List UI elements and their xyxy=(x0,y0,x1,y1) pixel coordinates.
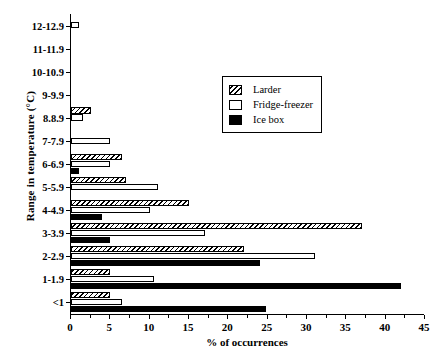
x-axis-tick-label: 5 xyxy=(107,321,113,333)
bar-group xyxy=(71,38,425,59)
bar-fridge xyxy=(71,161,110,167)
bar-fridge xyxy=(71,138,110,144)
x-axis-tick-label: 30 xyxy=(301,321,312,333)
bar-larder xyxy=(71,292,110,298)
x-axis-minor-tick xyxy=(247,315,248,318)
bar-group xyxy=(71,223,425,244)
x-axis-minor-tick xyxy=(168,315,169,318)
x-axis-minor-tick xyxy=(90,315,91,318)
x-axis-tick-label: 35 xyxy=(340,321,351,333)
x-axis-tick xyxy=(345,315,346,319)
x-axis-minor-tick xyxy=(208,315,209,318)
x-axis-tick xyxy=(267,315,268,319)
x-axis-tick-label: 25 xyxy=(261,321,272,333)
bar-group xyxy=(71,246,425,267)
x-axis-tick xyxy=(188,315,189,319)
black-swatch xyxy=(229,115,242,125)
y-axis-tick-label: 10-10.9 xyxy=(32,66,64,77)
legend-item: Larder xyxy=(229,82,313,97)
bar-ice xyxy=(71,214,102,220)
bar-larder xyxy=(71,223,362,229)
bar-ice xyxy=(71,237,110,243)
white-swatch xyxy=(229,100,242,110)
bar-larder xyxy=(71,154,122,160)
bar-larder xyxy=(71,246,244,252)
legend-item-label: Fridge-freezer xyxy=(253,99,313,110)
plot-area: 12-12.911-11.910-10.99-9.98.8.97-7.96-6.… xyxy=(70,14,424,314)
x-axis-tick-label: 45 xyxy=(419,321,430,333)
bar-fridge xyxy=(71,299,122,305)
x-axis-tick-label: 0 xyxy=(67,321,73,333)
bar-fridge xyxy=(71,207,150,213)
bar-chart: Range in temperature (°C) 12-12.911-11.9… xyxy=(0,0,442,359)
x-axis-tick-label: 15 xyxy=(183,321,194,333)
y-axis-tick-label: 8.8.9 xyxy=(43,112,64,123)
y-axis-tick-label: 1-1.9 xyxy=(42,274,64,285)
bar-ice xyxy=(71,306,266,312)
x-axis-tick xyxy=(306,315,307,319)
bar-fridge xyxy=(71,114,83,120)
x-axis-tick xyxy=(424,315,425,319)
x-axis-minor-tick xyxy=(326,315,327,318)
y-axis-tick-label: 9-9.9 xyxy=(42,89,64,100)
x-axis-tick-label: 40 xyxy=(379,321,390,333)
y-axis-tick-label: 2-2.9 xyxy=(42,251,64,262)
bar-fridge xyxy=(71,184,158,190)
x-axis-tick xyxy=(109,315,110,319)
bar-fridge xyxy=(71,276,154,282)
legend-item: Fridge-freezer xyxy=(229,97,313,112)
y-axis-tick-label: 5-5.9 xyxy=(42,182,64,193)
bar-ice xyxy=(71,260,260,266)
x-axis: 051015202530354045 xyxy=(70,314,424,315)
bar-larder xyxy=(71,200,189,206)
bar-ice xyxy=(71,283,401,289)
x-axis-tick-label: 10 xyxy=(143,321,154,333)
y-axis-tick-label: 6-6.9 xyxy=(42,159,64,170)
legend-item: Ice box xyxy=(229,112,313,127)
y-axis-tick-label: 7-7.9 xyxy=(42,135,64,146)
legend-item-label: Ice box xyxy=(253,114,284,125)
bar-larder xyxy=(71,269,110,275)
hatched-swatch xyxy=(229,85,242,95)
bar-fridge xyxy=(71,253,315,259)
x-axis-minor-tick xyxy=(404,315,405,318)
chart-legend: LarderFridge-freezerIce box xyxy=(222,76,322,133)
bar-group xyxy=(71,154,425,175)
x-axis-minor-tick xyxy=(365,315,366,318)
x-axis-tick-label: 20 xyxy=(222,321,233,333)
y-axis-title: Range in temperature (°C) xyxy=(24,56,36,256)
bar-larder xyxy=(71,107,91,113)
y-axis-tick-label: 12-12.9 xyxy=(32,20,64,31)
bar-larder xyxy=(71,177,126,183)
y-axis-tick-label: 4-4.9 xyxy=(42,205,64,216)
bar-ice xyxy=(71,168,79,174)
x-axis-minor-tick xyxy=(129,315,130,318)
x-axis-minor-tick xyxy=(286,315,287,318)
bar-group xyxy=(71,200,425,221)
bar-group xyxy=(71,177,425,198)
bar-group xyxy=(71,292,425,313)
bar-group xyxy=(71,269,425,290)
x-axis-title: % of occurrences xyxy=(70,336,424,348)
bar-group xyxy=(71,131,425,152)
y-axis-tick-label: <1 xyxy=(53,297,64,308)
x-axis-tick xyxy=(70,315,71,319)
x-axis-tick xyxy=(149,315,150,319)
x-axis-tick xyxy=(385,315,386,319)
bar-fridge xyxy=(71,230,205,236)
bar-group xyxy=(71,15,425,36)
legend-item-label: Larder xyxy=(253,84,281,95)
bar-fridge xyxy=(71,22,79,28)
x-axis-tick xyxy=(227,315,228,319)
y-axis-tick-label: 11-11.9 xyxy=(33,43,64,54)
y-axis-tick-label: 3-3.9 xyxy=(42,228,64,239)
